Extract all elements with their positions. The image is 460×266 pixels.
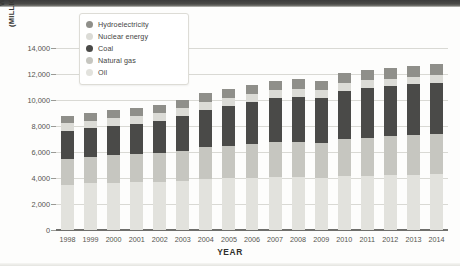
bar-2007[interactable] <box>269 81 282 230</box>
legend-item-label: Oil <box>98 68 107 77</box>
bar-segment-nuclear-energy <box>292 89 305 97</box>
bar-segment-natural-gas <box>222 146 235 178</box>
bar-segment-oil <box>61 185 74 231</box>
x-tick-label-2012: 2012 <box>379 235 402 244</box>
bar-2002[interactable] <box>153 105 166 230</box>
bar-segment-natural-gas <box>361 138 374 176</box>
bar-segment-coal <box>199 110 212 148</box>
bar-2009[interactable] <box>315 81 328 230</box>
bar-segment-nuclear-energy <box>384 79 397 86</box>
bar-segment-natural-gas <box>292 142 305 177</box>
bar-segment-nuclear-energy <box>269 90 282 98</box>
bar-segment-coal <box>361 88 374 138</box>
bar-segment-natural-gas <box>130 154 143 182</box>
legend-swatch-icon <box>86 21 93 28</box>
x-tick-label-2006: 2006 <box>240 235 263 244</box>
bar-segment-oil <box>384 175 397 230</box>
bar-2010[interactable] <box>338 73 351 230</box>
x-tick-label-2002: 2002 <box>148 235 171 244</box>
bar-segment-nuclear-energy <box>176 108 189 116</box>
bar-segment-oil <box>107 183 120 230</box>
bar-segment-natural-gas <box>384 136 397 175</box>
y-tick-mark <box>51 204 56 205</box>
bar-segment-hydroelectricity <box>176 100 189 108</box>
bar-segment-nuclear-energy <box>130 116 143 124</box>
bar-2006[interactable] <box>246 85 259 230</box>
x-tick-label-2005: 2005 <box>217 235 240 244</box>
bar-segment-nuclear-energy <box>84 121 97 129</box>
bar-2000[interactable] <box>107 110 120 230</box>
bar-segment-hydroelectricity <box>222 89 235 98</box>
bar-segment-nuclear-energy <box>61 123 74 130</box>
bar-segment-natural-gas <box>84 157 97 184</box>
bar-segment-hydroelectricity <box>384 68 397 79</box>
y-tick-mark <box>51 178 56 179</box>
bar-segment-nuclear-energy <box>407 77 420 84</box>
bar-segment-hydroelectricity <box>407 66 420 77</box>
y-tick-label: 6,000 <box>4 148 50 157</box>
bar-2004[interactable] <box>199 93 212 230</box>
bar-2001[interactable] <box>130 108 143 230</box>
x-tick-label-1998: 1998 <box>56 235 79 244</box>
bar-segment-hydroelectricity <box>269 81 282 90</box>
bar-segment-nuclear-energy <box>430 75 443 82</box>
legend-item-oil[interactable]: Oil <box>86 67 182 78</box>
bar-1999[interactable] <box>84 113 97 230</box>
legend-swatch-icon <box>86 33 93 40</box>
legend-item-coal[interactable]: Coal <box>86 43 182 54</box>
bar-segment-natural-gas <box>199 147 212 178</box>
bar-segment-natural-gas <box>315 143 328 178</box>
bar-segment-natural-gas <box>246 144 259 177</box>
bar-segment-coal <box>130 124 143 155</box>
legend-item-label: Hydroelectricity <box>98 20 149 29</box>
bar-2014[interactable] <box>430 64 443 230</box>
x-tick-label-2004: 2004 <box>194 235 217 244</box>
bar-segment-nuclear-energy <box>199 102 212 110</box>
bar-segment-oil <box>361 176 374 230</box>
y-tick-mark <box>51 230 56 231</box>
bar-2008[interactable] <box>292 79 305 230</box>
bar-2005[interactable] <box>222 89 235 230</box>
x-tick-label-1999: 1999 <box>79 235 102 244</box>
bar-segment-coal <box>61 131 74 159</box>
bar-segment-coal <box>153 121 166 153</box>
bar-segment-oil <box>407 175 420 230</box>
bar-segment-hydroelectricity <box>292 79 305 88</box>
bar-segment-natural-gas <box>153 153 166 182</box>
bar-1998[interactable] <box>61 116 74 230</box>
bar-segment-oil <box>315 178 328 230</box>
x-axis-title: YEAR <box>0 247 460 257</box>
legend-item-hydroelectricity[interactable]: Hydroelectricity <box>86 19 182 30</box>
chart-legend[interactable]: HydroelectricityNuclear energyCoalNatura… <box>79 13 189 85</box>
legend-item-nuclear-energy[interactable]: Nuclear energy <box>86 31 182 42</box>
y-tick-mark <box>51 152 56 153</box>
x-tick-label-2000: 2000 <box>102 235 125 244</box>
bar-segment-natural-gas <box>269 142 282 177</box>
bar-segment-natural-gas <box>338 139 351 176</box>
bar-segment-hydroelectricity <box>199 93 212 101</box>
y-tick-label: 2,000 <box>4 200 50 209</box>
bar-segment-nuclear-energy <box>107 118 120 126</box>
bar-segment-oil <box>430 174 443 230</box>
bar-segment-natural-gas <box>107 155 120 183</box>
bar-segment-coal <box>407 84 420 135</box>
y-axis-title-line1: WORLD ENERGY CONSUMPTION <box>0 0 7 40</box>
bar-segment-oil <box>222 178 235 230</box>
bar-segment-hydroelectricity <box>84 113 97 121</box>
bar-segment-oil <box>269 177 282 230</box>
bar-2013[interactable] <box>407 66 420 230</box>
x-tick-label-2014: 2014 <box>425 235 448 244</box>
bar-segment-coal <box>315 98 328 143</box>
bar-2011[interactable] <box>361 70 374 230</box>
x-tick-label-2001: 2001 <box>125 235 148 244</box>
bar-segment-nuclear-energy <box>338 83 351 91</box>
bar-2003[interactable] <box>176 100 189 230</box>
bar-2012[interactable] <box>384 68 397 230</box>
y-tick-label: 14,000 <box>4 44 50 53</box>
legend-item-natural-gas[interactable]: Natural gas <box>86 55 182 66</box>
bar-segment-natural-gas <box>407 135 420 175</box>
x-tick-label-2009: 2009 <box>310 235 333 244</box>
legend-swatch-icon <box>86 69 93 76</box>
legend-swatch-icon <box>86 45 93 52</box>
bar-segment-hydroelectricity <box>246 85 259 94</box>
